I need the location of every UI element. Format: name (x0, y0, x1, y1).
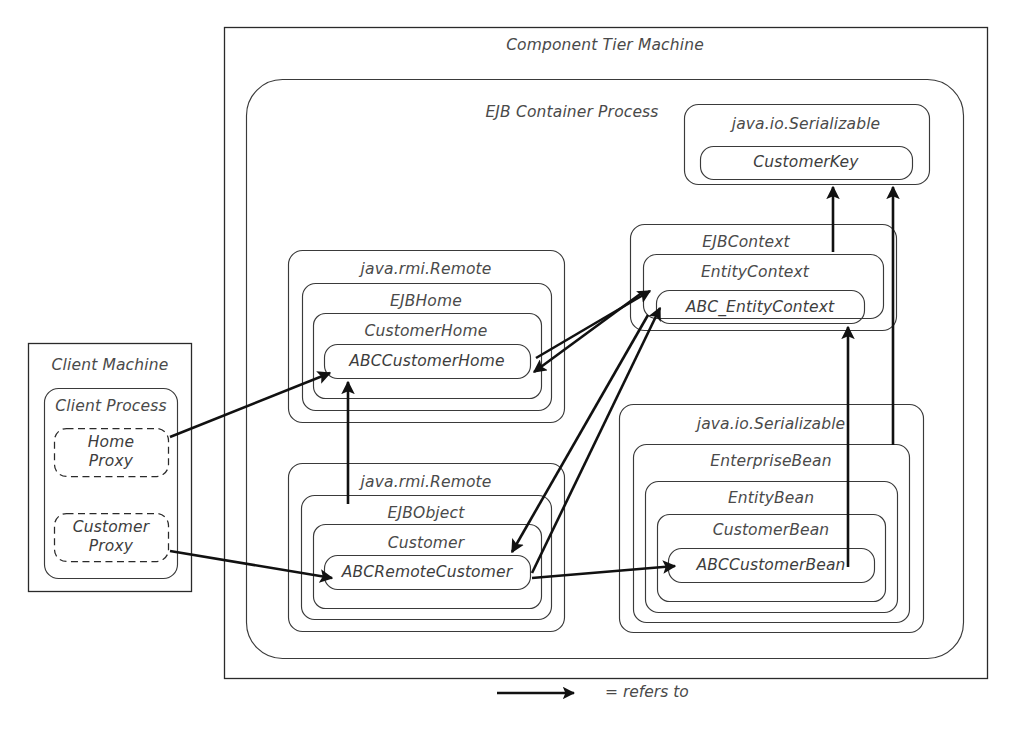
arrow-customer-proxy-to-abcremotecustomer (170, 551, 332, 578)
client-process-label: Client Process (55, 397, 166, 415)
entitybean-label: EntityBean (728, 489, 814, 507)
abc-entitycontext-label: ABC_EntityContext (686, 298, 835, 316)
serializable-key-label: java.io.Serializable (732, 115, 881, 133)
customer-proxy-line2: Proxy (89, 537, 133, 555)
arrow-abcremotecustomer-to-abccustomerbean (532, 566, 675, 578)
ejb-architecture-diagram: Component Tier Machine EJB Container Pro… (0, 0, 1013, 730)
home-proxy-label: Home Proxy (56, 433, 166, 471)
customer-proxy-label: Customer Proxy (56, 518, 166, 556)
ejbobject-label: EJBObject (388, 504, 465, 522)
enterprisebean-label: EnterpriseBean (710, 452, 831, 470)
ejbcontext-label: EJBContext (702, 233, 790, 251)
abccustomerhome-label: ABCCustomerHome (349, 352, 504, 370)
customer-proxy-line1: Customer (73, 518, 150, 536)
object-remote-label: java.rmi.Remote (361, 473, 492, 491)
entitycontext-label: EntityContext (701, 263, 809, 281)
home-proxy-line2: Proxy (89, 452, 133, 470)
customerbean-label: CustomerBean (713, 521, 830, 539)
abcremotecustomer-label: ABCRemoteCustomer (342, 563, 512, 581)
arrow-abccustomerhome-to-abc-entitycontext (536, 291, 650, 358)
abccustomerbean-label: ABCCustomerBean (696, 556, 845, 574)
bean-serializable-label: java.io.Serializable (697, 415, 846, 433)
home-proxy-line1: Home (88, 433, 134, 451)
page-title: Component Tier Machine (506, 36, 704, 54)
arrow-home-proxy-to-abccustomerhome (170, 373, 330, 437)
customerkey-label: CustomerKey (753, 153, 858, 171)
ejbhome-label: EJBHome (390, 292, 462, 310)
customerhome-label: CustomerHome (365, 322, 488, 340)
ejb-container-process-label: EJB Container Process (485, 103, 658, 121)
customer-interface-label: Customer (388, 534, 465, 552)
client-machine-label: Client Machine (52, 356, 169, 374)
legend-label: = refers to (605, 683, 689, 701)
home-remote-label: java.rmi.Remote (361, 260, 492, 278)
arrow-abc-entitycontext-to-abcremotecustomer (512, 315, 648, 552)
